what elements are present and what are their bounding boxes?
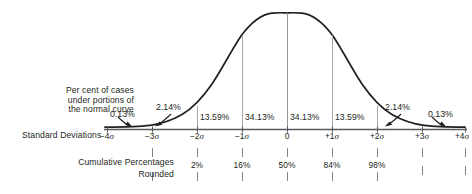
band-percent-neg4-neg3: 0.13%	[110, 110, 135, 120]
sigma-tick-pos1: +1σ	[325, 131, 339, 141]
band-percent-neg3-neg2: 2.14%	[156, 103, 181, 113]
connector-ticks-upper	[153, 148, 466, 157]
band-percent-pos1-pos2: 13.59%	[335, 113, 364, 123]
sigma-tick-neg3: −3σ	[145, 131, 159, 141]
sigma-tick-neg2: −2σ	[190, 131, 204, 141]
cumulative-percent-pos1: 84%	[324, 161, 341, 170]
cumulative-title: Cumulative Percentages Rounded	[48, 157, 174, 180]
sigma-gridlines	[198, 14, 378, 128]
band-percent-neg2-neg1: 13.59%	[200, 113, 229, 123]
callout-arrowheads	[125, 121, 446, 127]
cumulative-percent-neg2: 2%	[191, 161, 203, 170]
sigma-tick-neg4: −4σ	[100, 131, 114, 141]
sigma-tick-zero: 0	[285, 131, 290, 141]
sigma-tick-pos2: +2σ	[370, 131, 384, 141]
cumulative-title-line-1: Cumulative Percentages	[48, 157, 174, 169]
cumulative-percent-zero: 50%	[279, 161, 296, 170]
band-percent-pos3-pos4: 0.13%	[428, 110, 453, 120]
normal-curve-figure: Per cent of cases under portions of the …	[0, 0, 472, 194]
sigma-tick-pos3: +3σ	[415, 131, 429, 141]
cumulative-percent-pos2: 98%	[369, 161, 386, 170]
sigma-tick-neg1: −1σ	[235, 131, 249, 141]
band-percent-neg1-zero: 34.13%	[245, 113, 274, 123]
cumulative-title-line-2: Rounded	[48, 169, 174, 181]
band-percent-zero-pos1: 34.13%	[290, 113, 319, 123]
sigma-tick-pos4: +4σ	[455, 131, 469, 141]
axis-title: Standard Deviations	[22, 131, 101, 141]
cumulative-percent-neg1: 16%	[234, 161, 251, 170]
band-percent-pos2-pos3: 2.14%	[385, 103, 410, 113]
